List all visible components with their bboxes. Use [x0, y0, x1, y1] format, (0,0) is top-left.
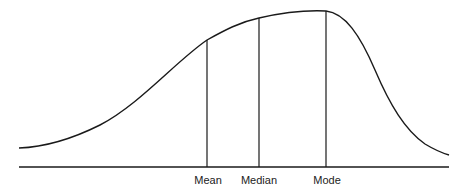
median-label: Median [241, 174, 277, 186]
distribution-curve [19, 11, 449, 155]
mean-label: Mean [194, 174, 222, 186]
skewed-distribution-diagram [0, 0, 466, 196]
mode-label: Mode [313, 174, 341, 186]
